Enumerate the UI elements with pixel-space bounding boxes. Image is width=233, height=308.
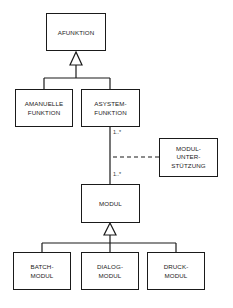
class-name: MODUL [99, 199, 122, 208]
class-name-line-1: BATCH- [30, 262, 53, 271]
class-name-line-1: DIALOG- [97, 262, 123, 271]
class-afunktion: AFUNKTION [46, 13, 106, 51]
multiplicity-label-bottom: 1..* [113, 171, 121, 177]
class-batch-modul: BATCH- MODUL [13, 252, 71, 290]
class-name-line-3: STÜTZUNG [171, 162, 205, 171]
class-dialog-modul: DIALOG- MODUL [81, 252, 139, 290]
class-name-line-2: MODUL [31, 271, 54, 280]
class-name: AFUNKTION [58, 28, 95, 37]
multiplicity-label-top: 1..* [113, 129, 121, 135]
class-name-line-1: MODUL- [176, 145, 201, 154]
class-modul-unterstuetzung: MODUL- UNTER- STÜTZUNG [159, 138, 218, 177]
class-name-line-1: AMANUELLE [25, 99, 63, 108]
class-name-line-1: DRUCK- [164, 262, 189, 271]
class-name-line-2: FUNKTION [28, 108, 60, 117]
class-name-line-2: MODUL [99, 271, 122, 280]
class-druck-modul: DRUCK- MODUL [147, 252, 205, 290]
class-name-line-2: FUNKTION [94, 108, 126, 117]
generalization-triangle-icon [70, 52, 82, 65]
generalization-triangle-icon [104, 223, 116, 235]
class-name-line-1: ASYSTEM- [94, 99, 126, 108]
class-modul: MODUL [81, 184, 140, 223]
class-asystem-funktion: ASYSTEM- FUNKTION [81, 89, 140, 127]
class-amanuelle-funktion: AMANUELLE FUNKTION [15, 89, 73, 127]
class-name-line-2: MODUL [165, 271, 188, 280]
class-name-line-2: UNTER- [177, 153, 201, 162]
